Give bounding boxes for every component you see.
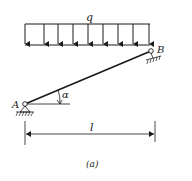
ground-hatch-icon (16, 112, 33, 116)
distributed-load: q (25, 11, 150, 45)
load-label: q (86, 11, 93, 24)
support-b-label: B (156, 44, 164, 55)
angle-arrow-icon (57, 100, 62, 104)
support-a-label: A (11, 99, 19, 110)
beam-diagram: q α A (0, 0, 192, 181)
roller-link (151, 53, 153, 58)
pin-triangle-icon (20, 106, 30, 112)
hinge-icon (149, 49, 154, 54)
span-label: l (90, 121, 94, 134)
inclined-beam (25, 51, 151, 104)
angle-label: α (62, 89, 69, 100)
figure-caption: (a) (86, 159, 99, 169)
span-dimension: l (25, 121, 155, 145)
roller-support-b: B (146, 44, 164, 64)
